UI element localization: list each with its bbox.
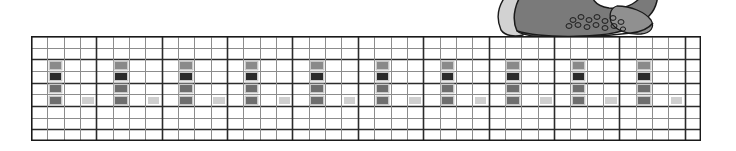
grid-cell-mark[interactable] bbox=[507, 62, 519, 69]
grid-cell-mark[interactable] bbox=[180, 62, 192, 69]
grid-cell-mark[interactable] bbox=[540, 97, 552, 104]
grid-cell-mark[interactable] bbox=[638, 85, 650, 92]
grid-cell-mark[interactable] bbox=[638, 62, 650, 69]
grid-cell-mark[interactable] bbox=[82, 97, 94, 104]
notation-grid[interactable] bbox=[31, 36, 701, 141]
grid-cell-mark[interactable] bbox=[638, 73, 650, 80]
grid-cell-mark[interactable] bbox=[573, 85, 585, 92]
grid-cell-mark[interactable] bbox=[180, 97, 192, 104]
grid-cell-mark[interactable] bbox=[573, 97, 585, 104]
grid-cell-mark[interactable] bbox=[377, 62, 389, 69]
grid-cell-mark[interactable] bbox=[311, 73, 323, 80]
grid-cell-mark[interactable] bbox=[180, 85, 192, 92]
grid-cell-mark[interactable] bbox=[573, 73, 585, 80]
grid-cell-mark[interactable] bbox=[442, 73, 454, 80]
grid-cell-mark[interactable] bbox=[442, 85, 454, 92]
cropped-shoe-illustration bbox=[481, 0, 671, 37]
grid-cell-mark[interactable] bbox=[246, 97, 258, 104]
grid-cell-mark[interactable] bbox=[311, 62, 323, 69]
grid-cell-mark[interactable] bbox=[213, 97, 225, 104]
grid-cell-mark[interactable] bbox=[311, 97, 323, 104]
grid-cell-mark[interactable] bbox=[507, 85, 519, 92]
grid-cell-mark[interactable] bbox=[115, 97, 127, 104]
grid-cell-mark[interactable] bbox=[377, 73, 389, 80]
grid-cell-mark[interactable] bbox=[115, 73, 127, 80]
grid-cell-mark[interactable] bbox=[115, 85, 127, 92]
grid-cell-mark[interactable] bbox=[475, 97, 487, 104]
grid-cell-mark[interactable] bbox=[50, 85, 62, 92]
page-root bbox=[0, 0, 736, 151]
grid-cell-mark[interactable] bbox=[377, 85, 389, 92]
grid-cell-mark[interactable] bbox=[50, 73, 62, 80]
grid-cell-mark[interactable] bbox=[50, 62, 62, 69]
grid-cell-mark[interactable] bbox=[507, 73, 519, 80]
grid-lines-canvas bbox=[31, 36, 701, 141]
grid-cell-mark[interactable] bbox=[246, 73, 258, 80]
grid-cell-mark[interactable] bbox=[573, 62, 585, 69]
grid-cell-mark[interactable] bbox=[115, 62, 127, 69]
grid-cell-mark[interactable] bbox=[442, 62, 454, 69]
grid-cell-mark[interactable] bbox=[246, 85, 258, 92]
grid-cell-mark[interactable] bbox=[442, 97, 454, 104]
grid-cell-mark[interactable] bbox=[671, 97, 683, 104]
grid-cell-mark[interactable] bbox=[344, 97, 356, 104]
grid-cell-mark[interactable] bbox=[311, 85, 323, 92]
grid-cell-mark[interactable] bbox=[377, 97, 389, 104]
grid-cell-mark[interactable] bbox=[50, 97, 62, 104]
grid-cell-mark[interactable] bbox=[180, 73, 192, 80]
grid-cell-mark[interactable] bbox=[507, 97, 519, 104]
grid-cell-mark[interactable] bbox=[638, 97, 650, 104]
grid-cell-mark[interactable] bbox=[605, 97, 617, 104]
grid-cell-mark[interactable] bbox=[148, 97, 160, 104]
grid-cell-mark[interactable] bbox=[246, 62, 258, 69]
grid-cell-mark[interactable] bbox=[279, 97, 291, 104]
grid-cell-mark[interactable] bbox=[409, 97, 421, 104]
